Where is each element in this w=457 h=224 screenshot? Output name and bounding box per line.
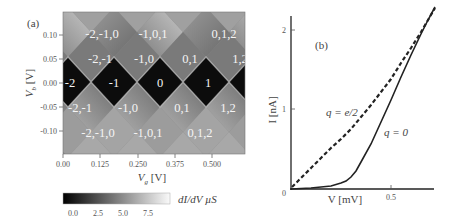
panel-a-label: (a) [27,17,40,30]
x-tick-a-1: 0.125 [91,160,109,169]
label-r2-2: 0,1 [182,52,198,66]
label-r4-2: 0,1 [174,101,190,115]
label-r3-2: 0 [157,76,163,90]
colorbar-tick-1: 2.5 [93,209,103,218]
y-tick-b-label-1: 1 [282,105,286,114]
colorbar-tick-0: 0.0 [68,209,78,218]
colorbar-tick-3: 7.5 [143,209,153,218]
panel-a-xlabel: Vg [V] [138,171,166,186]
x-tick-a-4: 0.500 [203,160,221,169]
svg-text:Vb [V]: Vb [V] [23,69,38,97]
x-tick-a-0: 0.00 [56,160,70,169]
label-r1-2: 0,1,2 [212,27,237,41]
panel-a-ylabel: Vb [V] [23,69,38,97]
label-r5-2: 0,1,2 [188,126,213,140]
heatmap-panel-a: -2,-1,0 -1,0,1 0,1,2 -2,-1 -1,0 0,1 1,2 … [22,0,275,182]
panel-b-axes [290,16,434,190]
colorbar-tick-2: 5.0 [118,209,128,218]
label-r3-1: -1 [109,76,119,90]
x-tick-a-2: 0.250 [129,160,147,169]
y-tick-a-4: -0.10 [40,127,57,136]
label-r1-0: -2,-1,0 [85,27,118,41]
y-tick-a-1: 0.05 [43,55,57,64]
panel-b-label: (b) [315,39,328,52]
label-r4-3: 1,2 [220,101,236,115]
xlabel-a-unit: [V] [148,171,166,183]
annotation-q-zero: q = 0 [384,126,408,138]
panel-a-y-axis [59,35,63,131]
colorbar [63,193,170,204]
label-r3-3: 1 [205,76,211,90]
panel-b-ylabel: I [nA] [266,96,278,123]
curve-q-zero [291,7,435,189]
y-tick-b-label-2: 2 [282,26,286,35]
colorbar-label: dI/dV µS [178,193,217,205]
ylabel-a-unit: [V] [23,69,35,87]
label-r2-0: -2,-1 [88,52,112,66]
y-tick-b-label-0: 0 [282,189,286,198]
annotation-q-half: q = e/2 [326,106,358,118]
y-tick-a-0: 0.10 [43,31,57,40]
figure: -2,-1,0 -1,0,1 0,1,2 -2,-1 -1,0 0,1 1,2 … [0,0,457,224]
y-tick-a-2: 0.00 [43,79,57,88]
panel-b-xlabel: V [mV] [328,193,362,205]
y-tick-a-3: -0.05 [40,103,57,112]
x-tick-b-label: 0.5 [386,193,396,202]
label-r1-1: -1,0,1 [138,27,167,41]
label-r2-1: -1,0 [134,52,154,66]
label-r5-0: -2,-1,0 [81,126,114,140]
label-r2-3: 1,2 [232,52,248,66]
label-r5-1: -1,0,1 [133,126,162,140]
curve-q-half [292,8,435,187]
label-r4-0: -2,-1 [68,101,92,115]
x-tick-a-3: 0.375 [166,160,184,169]
panel-a-x-axis [63,154,212,158]
label-r4-1: -1,0 [118,101,138,115]
label-r3-0: -2 [65,76,75,90]
